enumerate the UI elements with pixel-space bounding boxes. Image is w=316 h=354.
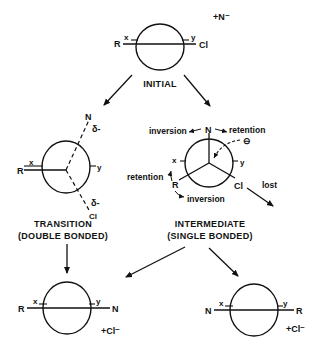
arrow-intermediate-to-product-left xyxy=(126,247,185,277)
transition-orbital xyxy=(42,141,90,193)
initial-stage: R x y Cl +N⁻ INITIAL xyxy=(114,12,230,89)
intermediate-right-atom: Cl xyxy=(234,181,243,191)
intermediate-caption-line2: (SINGLE BONDED) xyxy=(167,231,253,241)
label-retention-top: retention xyxy=(229,125,265,135)
intermediate-charge: ⊖ xyxy=(243,136,251,146)
product-left-byproduct: +Cl⁻ xyxy=(101,326,120,336)
initial-reagent: +N⁻ xyxy=(213,12,230,22)
initial-caption: INITIAL xyxy=(143,79,177,89)
transition-left-atom: R xyxy=(17,166,24,176)
product-left-stage: R x y N +Cl⁻ xyxy=(18,282,120,336)
transition-bottom-charge: δ- xyxy=(91,198,99,208)
product-right-right-sub: y xyxy=(283,299,288,308)
arrow-cl-lost xyxy=(247,188,273,206)
arrow-intermediate-to-product-right xyxy=(209,248,238,276)
product-left-right-sub: y xyxy=(96,297,101,306)
transition-top-atom: N xyxy=(85,112,92,122)
initial-right-sub: y xyxy=(191,33,196,42)
intermediate-caption-line1: INTERMEDIATE xyxy=(175,219,245,229)
transition-left-sub: x xyxy=(29,158,34,167)
intermediate-stage: N x y R Cl ⊖ inversion retention retenti… xyxy=(127,125,277,241)
product-right-left-atom: N xyxy=(205,306,212,316)
transition-top-charge: δ- xyxy=(92,124,100,134)
arrow-initial-to-transition xyxy=(104,75,132,105)
intermediate-top-atom: N xyxy=(205,125,212,135)
intermediate-left-atom: R xyxy=(172,180,179,190)
product-right-left-sub: x xyxy=(219,299,224,308)
product-left-left-atom: R xyxy=(18,304,25,314)
transition-stage: R x y N δ- δ- Cl TRANSITION (DOUBLE BOND… xyxy=(17,112,108,241)
initial-right-atom: Cl xyxy=(199,40,208,50)
reaction-diagram: R x y Cl +N⁻ INITIAL R x y N δ- δ- Cl TR… xyxy=(0,0,316,354)
product-right-right-atom: R xyxy=(296,306,303,316)
intermediate-right-sub: y xyxy=(240,158,245,167)
initial-left-atom: R xyxy=(114,39,121,49)
initial-orbital xyxy=(136,24,184,70)
product-right-byproduct: +Cl⁻ xyxy=(286,324,305,334)
initial-left-sub: x xyxy=(124,33,129,42)
label-inversion-top: inversion xyxy=(149,126,187,136)
product-left-right-atom: N xyxy=(112,304,119,314)
transition-caption-line2: (DOUBLE BONDED) xyxy=(18,231,108,241)
product-left-left-sub: x xyxy=(33,297,38,306)
transition-partial-bond-cl xyxy=(66,170,89,210)
attack-arrow xyxy=(214,140,240,158)
transition-caption-line1: TRANSITION xyxy=(34,219,92,229)
label-lost: lost xyxy=(262,180,277,190)
arrow-initial-to-intermediate xyxy=(184,75,210,106)
label-inversion-bottom: inversion xyxy=(187,194,225,204)
transition-right-sub: y xyxy=(97,163,102,172)
intermediate-left-sub: x xyxy=(172,156,177,165)
transition-partial-bond-n xyxy=(66,120,89,170)
product-right-stage: N x y R +Cl⁻ xyxy=(205,284,305,336)
label-retention-left: retention xyxy=(127,172,163,182)
